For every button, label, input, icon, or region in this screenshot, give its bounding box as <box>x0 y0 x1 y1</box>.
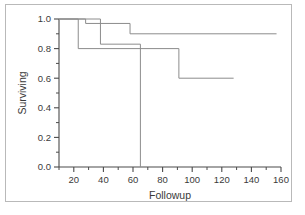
x-tick-label: 100 <box>184 174 200 185</box>
x-tick-label: 140 <box>243 174 259 185</box>
y-tick-label: 0.2 <box>38 132 51 143</box>
survival-curve <box>59 19 277 34</box>
y-tick-label: 1.0 <box>38 13 51 24</box>
y-tick-label: 0.0 <box>38 161 51 172</box>
x-tick-label: 80 <box>157 174 168 185</box>
x-tick-label: 20 <box>69 174 80 185</box>
x-tick-label: 40 <box>98 174 109 185</box>
survival-chart: 0.00.20.40.60.81.020406080100120140160Fo… <box>0 0 305 215</box>
y-tick-label: 0.8 <box>38 43 51 54</box>
x-tick-label: 120 <box>214 174 230 185</box>
y-tick-label: 0.6 <box>38 73 51 84</box>
y-axis-title: Surviving <box>16 71 28 114</box>
y-tick-label: 0.4 <box>38 102 51 113</box>
x-tick-label: 60 <box>128 174 139 185</box>
x-axis-title: Followup <box>149 189 191 201</box>
survival-curve <box>59 19 234 78</box>
x-tick-label: 160 <box>273 174 289 185</box>
figure-container: 0.00.20.40.60.81.020406080100120140160Fo… <box>0 0 305 215</box>
survival-curve <box>59 19 140 167</box>
